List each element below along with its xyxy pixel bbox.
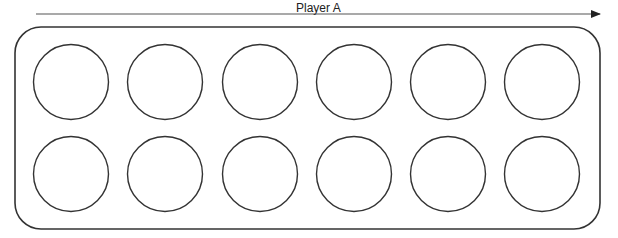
- pit-row2-col4: [317, 137, 392, 212]
- pit-row2-col6: [505, 137, 580, 212]
- pit-row2-col2: [128, 137, 203, 212]
- pit-row2-col5: [411, 137, 486, 212]
- pit-row1-col2: [128, 45, 203, 120]
- pit-row1-col6: [505, 45, 580, 120]
- pit-row1-col3: [223, 45, 298, 120]
- pits-group: [34, 45, 580, 212]
- pit-row1-col5: [411, 45, 486, 120]
- pit-row1-col1: [34, 45, 109, 120]
- pit-row1-col4: [317, 45, 392, 120]
- pit-row2-col3: [223, 137, 298, 212]
- mancala-board-diagram: [0, 0, 618, 238]
- pit-row2-col1: [34, 137, 109, 212]
- board-outline: [15, 27, 600, 229]
